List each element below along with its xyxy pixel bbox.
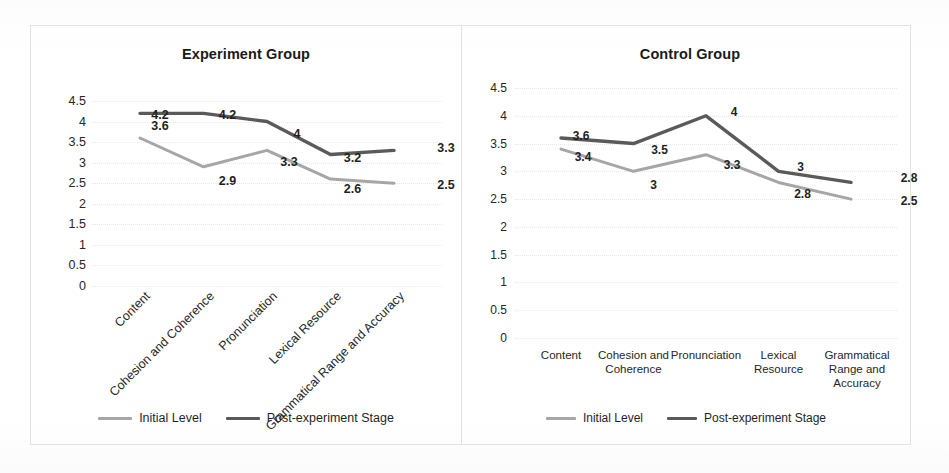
legend-control: Initial Level Post-experiment Stage bbox=[461, 411, 911, 425]
legend-experiment: Initial Level Post-experiment Stage bbox=[30, 411, 462, 425]
chart-title-control: Control Group bbox=[461, 46, 911, 62]
legend-item-post-experiment-stage[interactable]: Post-experiment Stage bbox=[667, 411, 826, 425]
legend-label-initial-level: Initial Level bbox=[583, 411, 643, 425]
control-group-chart: Control Group 4.543.532.521.510.503.433.… bbox=[461, 25, 911, 445]
series-layer bbox=[515, 88, 897, 338]
data-point-label: 2.5 bbox=[901, 194, 918, 208]
y-axis-tick-label: 3.5 bbox=[490, 137, 507, 151]
y-axis-tick-label: 0.5 bbox=[69, 258, 86, 272]
y-axis-tick-label: 0 bbox=[500, 331, 507, 345]
y-axis-tick-label: 0.5 bbox=[490, 303, 507, 317]
x-axis-category-label: Lexical Resource bbox=[748, 348, 810, 376]
x-axis-category-label: Content bbox=[112, 289, 153, 330]
data-point-label: 2.8 bbox=[794, 187, 811, 201]
y-axis-tick-label: 3.5 bbox=[69, 135, 86, 149]
y-axis-tick-label: 1 bbox=[500, 275, 507, 289]
x-axis-category-label: Grammatical Range and Accuracy bbox=[816, 348, 898, 390]
data-point-label: 3 bbox=[797, 160, 804, 174]
series-line-post-experiment-stage bbox=[140, 113, 394, 154]
data-point-label: 3.6 bbox=[573, 129, 590, 143]
data-point-label: 4.2 bbox=[219, 108, 236, 122]
series-line-post-experiment-stage bbox=[561, 116, 851, 183]
y-axis-tick-label: 2 bbox=[500, 220, 507, 234]
data-point-label: 3.3 bbox=[437, 141, 454, 155]
legend-swatch-initial-level bbox=[546, 417, 576, 420]
y-axis-tick-label: 4.5 bbox=[490, 81, 507, 95]
data-point-label: 3.3 bbox=[724, 158, 741, 172]
data-point-label: 3.4 bbox=[575, 150, 592, 164]
y-axis-tick-label: 1.5 bbox=[490, 248, 507, 262]
y-axis-tick-label: 2.5 bbox=[490, 192, 507, 206]
data-point-label: 3.2 bbox=[344, 151, 361, 165]
chart-title-experiment: Experiment Group bbox=[30, 46, 462, 62]
data-point-label: 4.2 bbox=[151, 108, 168, 122]
x-axis-category-label: Pronunciation bbox=[216, 289, 280, 353]
data-point-label: 2.9 bbox=[219, 174, 236, 188]
y-axis-tick-label: 0 bbox=[79, 279, 86, 293]
data-point-label: 2.8 bbox=[901, 171, 918, 185]
x-axis-category-label: Content bbox=[531, 348, 591, 362]
y-axis-tick-label: 4 bbox=[500, 109, 507, 123]
legend-label-post-experiment-stage: Post-experiment Stage bbox=[704, 411, 826, 425]
data-point-label: 4 bbox=[731, 105, 738, 119]
y-axis-tick-label: 4.5 bbox=[69, 94, 86, 108]
legend-swatch-post-experiment-stage bbox=[667, 417, 697, 420]
y-axis-tick-label: 1.5 bbox=[69, 217, 86, 231]
legend-item-initial-level[interactable]: Initial Level bbox=[98, 411, 202, 425]
data-point-label: 4 bbox=[294, 127, 301, 141]
y-axis-tick-label: 4 bbox=[79, 115, 86, 129]
x-axis-category-label: Pronunciation bbox=[664, 348, 748, 362]
y-axis-tick-label: 2 bbox=[79, 197, 86, 211]
legend-label-post-experiment-stage: Post-experiment Stage bbox=[267, 411, 394, 425]
experiment-group-chart: Experiment Group 4.543.532.521.510.503.6… bbox=[30, 25, 462, 445]
data-point-label: 2.6 bbox=[344, 182, 361, 196]
data-point-label: 3 bbox=[650, 178, 657, 192]
figure-container: Experiment Group 4.543.532.521.510.503.6… bbox=[0, 0, 949, 473]
y-axis-tick-label: 2.5 bbox=[69, 176, 86, 190]
data-point-label: 3.5 bbox=[651, 143, 668, 157]
y-axis-tick-label: 1 bbox=[79, 238, 86, 252]
data-point-label: 2.5 bbox=[437, 178, 454, 192]
legend-swatch-initial-level bbox=[98, 417, 132, 420]
legend-label-initial-level: Initial Level bbox=[139, 411, 202, 425]
legend-item-initial-level[interactable]: Initial Level bbox=[546, 411, 643, 425]
legend-item-post-experiment-stage[interactable]: Post-experiment Stage bbox=[226, 411, 394, 425]
gridline bbox=[515, 338, 897, 340]
plot-area-experiment: 4.543.532.521.510.503.62.93.32.62.54.24.… bbox=[92, 101, 442, 286]
y-axis-tick-label: 3 bbox=[500, 164, 507, 178]
y-axis-tick-label: 3 bbox=[79, 156, 86, 170]
series-layer bbox=[92, 101, 442, 286]
gridline bbox=[92, 286, 442, 288]
x-axis-category-label: Cohesion and Coherence bbox=[106, 289, 216, 399]
plot-area-control: 4.543.532.521.510.503.433.32.82.53.63.54… bbox=[515, 88, 897, 338]
data-point-label: 3.3 bbox=[280, 155, 297, 169]
legend-swatch-post-experiment-stage bbox=[226, 417, 260, 420]
